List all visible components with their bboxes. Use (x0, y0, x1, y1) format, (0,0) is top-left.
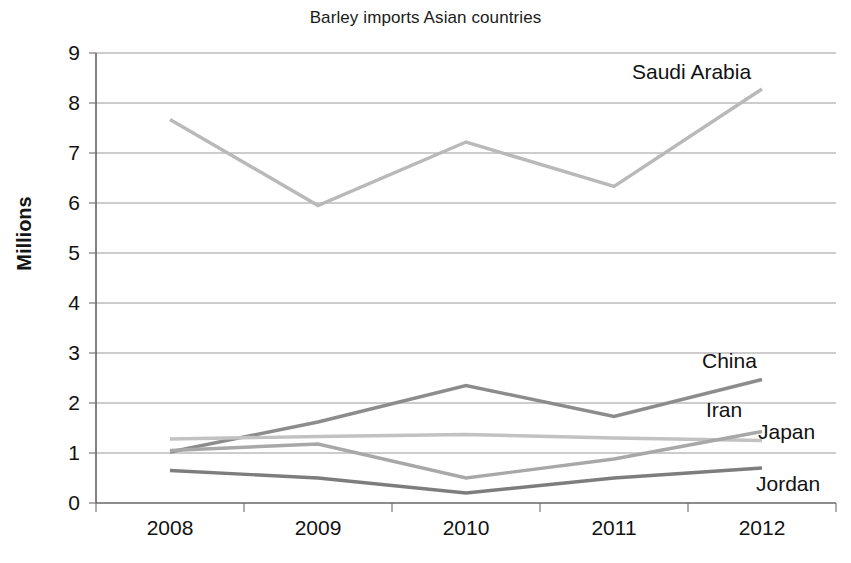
series-label-jordan: Jordan (756, 472, 820, 496)
series-line-jordan (170, 468, 762, 493)
series-lines (170, 89, 762, 493)
chart-container: Barley imports Asian countries Millions … (0, 0, 851, 563)
series-line-china (170, 380, 762, 453)
series-label-saudi-arabia: Saudi Arabia (632, 60, 751, 84)
series-label-japan: Japan (758, 420, 815, 444)
plot-area (0, 0, 851, 563)
series-label-china: China (702, 349, 757, 373)
tick-marks (89, 53, 836, 512)
series-label-iran: Iran (706, 398, 742, 422)
series-line-saudi-arabia (170, 89, 762, 206)
